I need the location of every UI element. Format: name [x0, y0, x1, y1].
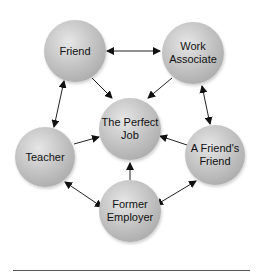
node-label: Work Associate	[169, 40, 217, 66]
edge-former-employer-teacher	[65, 182, 102, 207]
edge-teacher-perfect-job	[74, 137, 99, 144]
edge-work-associate-friends-friend	[202, 86, 210, 124]
bottom-divider	[13, 270, 250, 271]
edge-work-associate-perfect-job	[148, 78, 172, 98]
node-label: Friend	[59, 45, 90, 58]
edge-friend-perfect-job	[92, 78, 112, 98]
edge-friends-friend-former-employer	[156, 181, 196, 205]
node-friend: Friend	[44, 20, 106, 82]
node-work-associate: Work Associate	[162, 22, 224, 84]
edge-friends-friend-perfect-job	[160, 136, 187, 145]
node-label: Former Employer	[107, 198, 153, 224]
edge-teacher-friend	[54, 81, 64, 127]
node-teacher: Teacher	[15, 127, 75, 187]
node-label: A Friend's Friend	[191, 142, 240, 168]
node-label: The Perfect Job	[102, 116, 159, 142]
node-perfect-job: The Perfect Job	[99, 98, 161, 160]
node-former-employer: Former Employer	[99, 180, 161, 242]
node-friends-friend: A Friend's Friend	[185, 125, 245, 185]
node-label: Teacher	[25, 151, 64, 164]
